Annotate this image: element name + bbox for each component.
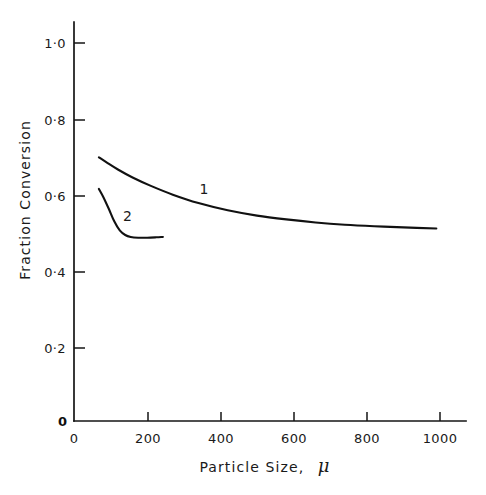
line-chart: 1·0 0·8 0·6 0·4 0·2 0 0 200 400 600 800 … [0, 0, 486, 495]
curve-label-1: 1 [199, 181, 208, 197]
y-tick-label-0-6: 0·6 [44, 189, 66, 204]
y-tick-label-0-2: 0·2 [44, 341, 66, 356]
x-tick-label-0: 0 [70, 431, 79, 446]
y-tick-label-0: 0 [58, 414, 67, 429]
x-tick-label-1000: 1000 [423, 431, 458, 446]
y-axis-title: Fraction Conversion [17, 120, 33, 280]
x-tick-label-800: 800 [354, 431, 380, 446]
y-tick-label-1-0: 1·0 [44, 36, 66, 51]
x-tick-label-200: 200 [135, 431, 161, 446]
x-axis-title-text: Particle Size, [199, 459, 304, 475]
x-tick-label-400: 400 [208, 431, 234, 446]
figure-container: 1·0 0·8 0·6 0·4 0·2 0 0 200 400 600 800 … [0, 0, 486, 495]
y-tick-label-0-4: 0·4 [44, 265, 66, 280]
y-tick-label-0-8: 0·8 [44, 113, 66, 128]
x-tick-label-600: 600 [281, 431, 307, 446]
mu-symbol-icon: μ [318, 455, 331, 476]
curve-label-2: 2 [123, 208, 132, 224]
